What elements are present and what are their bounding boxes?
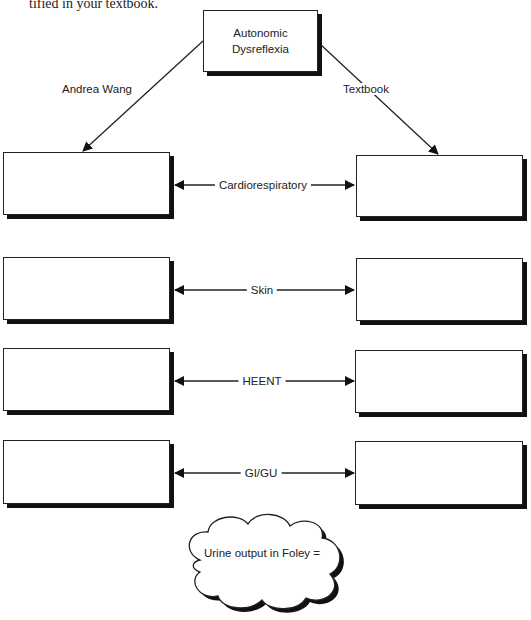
cloud-text: Urine output in Foley =	[204, 547, 320, 559]
gigu-patient-box[interactable]	[3, 440, 170, 504]
center-node-line1: Autonomic	[232, 25, 289, 41]
cloud-shape	[189, 514, 340, 608]
center-node: Autonomic Dysreflexia	[203, 10, 318, 72]
heent-patient-box[interactable]	[3, 348, 170, 411]
skin-textbook-box[interactable]	[356, 258, 523, 321]
center-node-line2: Dysreflexia	[232, 41, 289, 57]
cardiorespiratory-patient-box[interactable]	[3, 152, 170, 215]
row-label-skin: Skin	[247, 284, 277, 296]
row-label-heent: HEENT	[239, 375, 286, 387]
gigu-textbook-box[interactable]	[355, 441, 523, 505]
branch-right-label: Textbook	[339, 83, 393, 95]
branch-left-arrow	[83, 41, 203, 151]
branch-left-label: Andrea Wang	[58, 83, 136, 95]
row-label-cardiorespiratory: Cardiorespiratory	[215, 179, 311, 191]
heent-textbook-box[interactable]	[355, 350, 523, 413]
cardiorespiratory-textbook-box[interactable]	[356, 155, 523, 217]
row-label-gigu: GI/GU	[241, 467, 282, 479]
skin-patient-box[interactable]	[3, 257, 170, 320]
branch-right-arrow	[320, 44, 438, 154]
